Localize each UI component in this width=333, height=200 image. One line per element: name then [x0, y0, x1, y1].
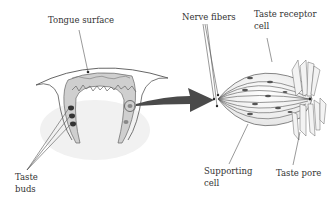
label-tongue-surface: Tongue surface [48, 15, 114, 25]
magnify-arrow-icon [136, 88, 214, 112]
label-taste-pore: Taste pore [276, 168, 321, 178]
label-taste-receptor-line1: Taste receptor [254, 9, 317, 19]
magnified-taste-bud [213, 60, 326, 140]
label-nerve-fibers: Nerve fibers [182, 12, 236, 22]
label-supporting-line1: Supporting [204, 166, 252, 176]
taste-bud-diagram: Tongue surface Taste buds Nerve fibers T… [0, 0, 333, 200]
label-taste-buds-line1: Taste [15, 172, 38, 182]
label-supporting-line2: cell [204, 178, 219, 188]
label-taste-buds-line2: buds [15, 184, 36, 194]
tongue-cross-section [36, 68, 168, 160]
label-taste-receptor-line2: cell [254, 21, 269, 31]
